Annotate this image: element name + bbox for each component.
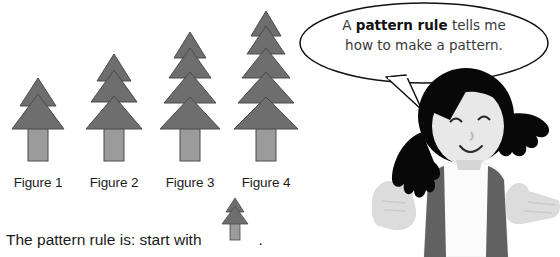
pattern-rule-text: The pattern rule is: start with [6,232,202,248]
figure-2-tree [76,48,152,168]
character-girl [372,60,560,257]
bubble-keyword: pattern rule [356,17,448,33]
pattern-rule-period: . [259,232,263,248]
pigtail-right [498,113,549,156]
bubble-line-2: how to make a pattern. [345,37,503,53]
right-hand-icon [504,183,560,224]
bubble-line1-suffix: tells me [448,17,506,33]
figure-2-label: Figure 2 [76,175,152,190]
figure-4-label: Figure 4 [228,175,304,190]
pattern-figures-group: Figure 1 Figure 2 Figure 3 [0,4,310,194]
pattern-rule-sentence: The pattern rule is: start with . [6,195,263,247]
neck [456,160,482,170]
worksheet-canvas: Figure 1 Figure 2 Figure 3 [0,0,560,257]
girl-illustration [372,60,560,257]
figure-1-tree [0,72,76,168]
vest-right [486,166,508,257]
figure-3-tree [152,26,228,168]
figure-1-label: Figure 1 [0,175,76,190]
tree-shape-1 [0,72,76,168]
tree-shape-4 [228,6,304,168]
tree-figure-1-icon [216,195,254,247]
speech-bubble-text: A pattern rule tells me how to make a pa… [298,15,550,55]
bubble-line-1: A pattern rule tells me [342,17,506,33]
bubble-line1-prefix: A [342,17,356,33]
figure-3-label: Figure 3 [152,175,228,190]
tree-shape-2 [76,48,152,168]
inline-tree-shape [216,195,254,243]
figure-4-tree [228,6,304,168]
tree-shape-3 [152,26,228,168]
